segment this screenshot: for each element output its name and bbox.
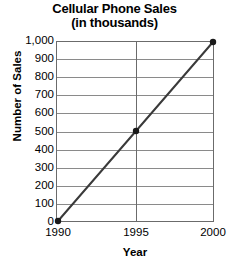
gridline-horizontal: [57, 186, 213, 187]
y-tick-label: 300: [0, 162, 54, 173]
y-tick-label: 700: [0, 89, 54, 100]
chart-title-line1: Cellular Phone Sales: [52, 1, 177, 16]
gridline-horizontal: [57, 168, 213, 169]
y-tick-label: 100: [0, 198, 54, 209]
y-tick-label: 1,000: [0, 35, 54, 46]
gridline-horizontal: [57, 204, 213, 205]
gridline-horizontal: [57, 132, 213, 133]
chart-container: Cellular Phone Sales (in thousands) Numb…: [0, 0, 229, 270]
gridline-horizontal: [57, 113, 213, 114]
x-tick-label: 2000: [190, 226, 229, 238]
gridline-vertical: [136, 42, 137, 221]
y-tick-label: 600: [0, 107, 54, 118]
y-tick-label: 800: [0, 71, 54, 82]
x-tick-label: 1990: [35, 226, 81, 238]
y-tick-label: 500: [0, 126, 54, 137]
gridline-horizontal: [57, 59, 213, 60]
y-tick-label: 400: [0, 144, 54, 155]
gridline-horizontal: [57, 77, 213, 78]
y-tick-label: 200: [0, 180, 54, 191]
gridline-horizontal: [57, 150, 213, 151]
x-axis-title: Year: [56, 246, 214, 258]
x-tick-label: 1995: [113, 226, 159, 238]
y-tick-label: 900: [0, 53, 54, 64]
plot-area: [56, 41, 214, 222]
gridline-horizontal: [57, 95, 213, 96]
